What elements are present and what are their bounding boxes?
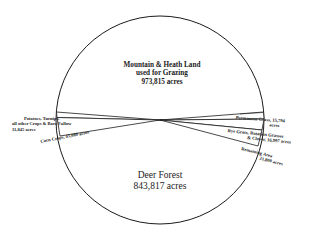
label-mountain-line1: Mountain & Heath Land <box>118 61 206 69</box>
label-deer-forest: Deer Forest 843,817 acres <box>112 170 208 192</box>
label-mountain-value: 973,815 acres <box>118 78 206 86</box>
label-potatoes: Potatoes, Turnips, all other Crops & Bar… <box>12 116 71 132</box>
label-deer-value: 843,817 acres <box>112 181 208 192</box>
label-potatoes-line2: all other Crops & Bare Fallow <box>12 121 71 126</box>
label-mountain: Mountain & Heath Land used for Grazing 9… <box>118 61 206 86</box>
label-deer-line1: Deer Forest <box>112 170 208 181</box>
label-potatoes-value: 11,845 acres <box>12 127 71 132</box>
label-mountain-line2: used for Grazing <box>118 69 206 77</box>
